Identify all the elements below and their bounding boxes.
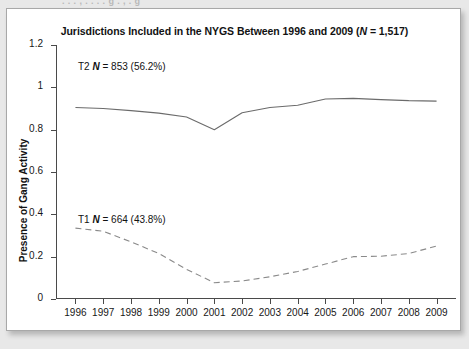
y-tick-0: 0 xyxy=(51,299,56,300)
x-tick-2004: 2004 xyxy=(298,299,299,304)
series-annotation-t2: T2 N = 853 (56.2%) xyxy=(78,61,166,72)
clipped-text-bleed: . . . , . . . . g . , . g xyxy=(0,0,469,7)
x-tick-label-1998: 1998 xyxy=(120,307,142,318)
y-tick-label-1.2: 1.2 xyxy=(17,38,43,49)
x-tick-label-1997: 1997 xyxy=(92,307,114,318)
x-tick-2008: 2008 xyxy=(409,299,410,304)
chart-title: Jurisdictions Included in the NYGS Betwe… xyxy=(7,25,462,37)
annotation-t2-suffix: = 853 (56.2%) xyxy=(100,61,166,72)
annotation-t2-italic-n: N xyxy=(92,61,99,72)
y-tick-label-0.8: 0.8 xyxy=(17,123,43,134)
chart-title-after: = 1,517) xyxy=(367,25,408,37)
x-tick-1997: 1997 xyxy=(103,299,104,304)
x-tick-2009: 2009 xyxy=(437,299,438,304)
x-tick-2006: 2006 xyxy=(353,299,354,304)
series-annotation-t1: T1 N = 664 (43.8%) xyxy=(78,214,166,225)
x-tick-2007: 2007 xyxy=(381,299,382,304)
y-tick-label-1: 1 xyxy=(17,80,43,91)
clipped-text-glyphs: . . . , . . . . g . , . g xyxy=(62,0,141,6)
series-lines xyxy=(56,45,456,299)
plot-area: 00.20.40.60.811.2 1996199719981999200020… xyxy=(56,45,456,299)
x-tick-2003: 2003 xyxy=(270,299,271,304)
y-tick-label-0.2: 0.2 xyxy=(17,250,43,261)
y-tick-label-0.4: 0.4 xyxy=(17,207,43,218)
y-tick-label-0.6: 0.6 xyxy=(17,165,43,176)
x-tick-label-2005: 2005 xyxy=(314,307,336,318)
x-tick-label-2009: 2009 xyxy=(425,307,447,318)
x-tick-2005: 2005 xyxy=(325,299,326,304)
series-line-t2 xyxy=(75,98,436,129)
annotation-t1-suffix: = 664 (43.8%) xyxy=(100,214,166,225)
x-tick-2002: 2002 xyxy=(242,299,243,304)
x-tick-label-2007: 2007 xyxy=(370,307,392,318)
x-tick-2000: 2000 xyxy=(187,299,188,304)
x-tick-1999: 1999 xyxy=(159,299,160,304)
chart-title-before: Jurisdictions Included in the NYGS Betwe… xyxy=(61,25,360,37)
x-tick-label-2000: 2000 xyxy=(175,307,197,318)
annotation-t2-prefix: T2 xyxy=(78,61,92,72)
x-tick-label-1996: 1996 xyxy=(64,307,86,318)
annotation-t1-prefix: T1 xyxy=(78,214,92,225)
x-tick-label-2003: 2003 xyxy=(259,307,281,318)
series-line-t1 xyxy=(75,228,436,283)
x-tick-label-2001: 2001 xyxy=(203,307,225,318)
x-tick-label-2002: 2002 xyxy=(231,307,253,318)
annotation-t1-italic-n: N xyxy=(92,214,99,225)
x-tick-1998: 1998 xyxy=(131,299,132,304)
x-tick-1996: 1996 xyxy=(75,299,76,304)
y-tick-label-0: 0 xyxy=(17,292,43,303)
x-tick-label-2008: 2008 xyxy=(398,307,420,318)
x-tick-label-1999: 1999 xyxy=(148,307,170,318)
figure-card: Jurisdictions Included in the NYGS Betwe… xyxy=(6,8,461,331)
x-tick-label-2004: 2004 xyxy=(287,307,309,318)
chart-title-italic-n: N xyxy=(359,25,367,37)
x-tick-2001: 2001 xyxy=(214,299,215,304)
x-tick-label-2006: 2006 xyxy=(342,307,364,318)
